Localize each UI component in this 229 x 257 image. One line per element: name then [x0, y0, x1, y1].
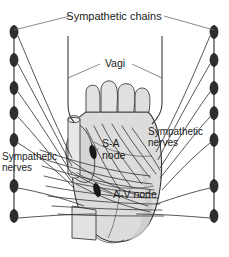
label-sympathetic-nerves-right-line2: nerves	[148, 137, 178, 148]
ganglion	[10, 26, 18, 39]
ganglion	[10, 54, 18, 67]
leader-vagi-right	[132, 64, 162, 78]
ganglion	[210, 134, 218, 147]
right-vagus-trunk	[152, 36, 162, 124]
ganglion	[10, 107, 18, 120]
label-sympathetic-nerves-left-line2: nerves	[2, 162, 32, 173]
ganglion	[210, 180, 218, 193]
inferior-vena-cava-stump	[72, 206, 96, 240]
diagram-canvas: Sympathetic chains Vagi S-A node A-V nod…	[0, 0, 229, 257]
ganglion	[10, 82, 18, 95]
label-sympathetic-chains: Sympathetic chains	[66, 10, 162, 22]
vena-cava-tube	[68, 116, 80, 179]
ganglion	[10, 134, 18, 147]
label-sa-node-line2: node	[102, 149, 126, 161]
label-vagi: Vagi	[105, 57, 125, 69]
left-vagus-trunk	[68, 36, 74, 122]
cardiac-innervation-diagram: Sympathetic chains Vagi S-A node A-V nod…	[0, 0, 229, 257]
pulmonary-veins-stump	[135, 88, 150, 112]
label-av-node: A-V node	[113, 188, 157, 200]
ganglion	[10, 210, 18, 223]
superior-vena-cava-stump	[86, 85, 100, 112]
leader-sympathetic-chains-right	[164, 16, 214, 30]
label-sympathetic-nerves-right-line1: Sympathetic	[148, 126, 203, 137]
leader-sympathetic-chains-left	[14, 16, 70, 30]
ganglion	[210, 54, 218, 67]
aorta-stump	[101, 81, 118, 112]
ganglion	[210, 82, 218, 95]
leader-vagi-left	[68, 64, 100, 78]
ganglion	[210, 26, 218, 39]
ganglion	[210, 107, 218, 120]
ganglion	[210, 210, 218, 223]
ganglion	[10, 180, 18, 193]
pulmonary-artery-stump	[118, 84, 135, 112]
label-sa-node-line1: S-A	[102, 137, 120, 149]
label-sympathetic-nerves-left-line1: Sympathetic	[2, 151, 57, 162]
